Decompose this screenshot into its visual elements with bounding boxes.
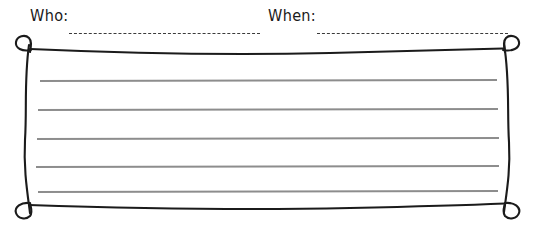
writing-line[interactable] [38,109,498,110]
frame-right-border [504,44,509,212]
writing-line[interactable] [38,191,498,192]
writing-line[interactable] [36,166,499,167]
frame-border [25,44,510,213]
corner-loop-top-left-icon [16,36,31,52]
worksheet-note-card: Who: When: [0,0,536,237]
note-card-frame [0,0,536,237]
writing-line[interactable] [37,138,499,139]
frame-left-border [25,45,30,213]
frame-top-border [30,49,503,54]
writing-lines [36,80,499,192]
corner-loop-top-right-icon [503,36,519,52]
frame-bottom-border [29,204,505,209]
writing-line[interactable] [40,80,497,81]
